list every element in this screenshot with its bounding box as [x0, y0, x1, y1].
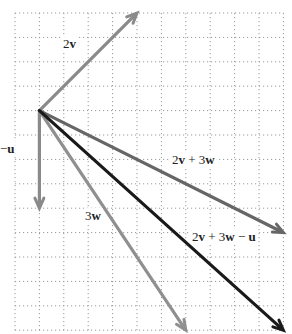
vector-label-2v: 2v: [63, 36, 77, 51]
vector-diagram: 2v−u3w2v + 3w2v + 3w − u: [0, 0, 292, 334]
vectors-layer: [35, 13, 283, 330]
vector-label-3w: 3w: [85, 208, 102, 223]
dotted-grid: [15, 13, 283, 330]
vector-label-2v+3w: 2v + 3w: [172, 152, 215, 167]
vector-neg-u: [35, 111, 44, 209]
vector-label-2v+3w-u: 2v + 3w − u: [192, 229, 256, 244]
vector-2v: [39, 13, 137, 111]
vector-label-neg-u: −u: [0, 141, 15, 156]
vector-2vplus-3w: [39, 111, 283, 233]
